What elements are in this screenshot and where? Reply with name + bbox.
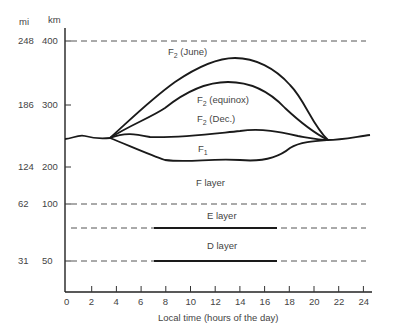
x-ticks bbox=[92, 286, 364, 292]
label-e-layer: E layer bbox=[207, 210, 237, 221]
y-tick-label-km: 50 bbox=[42, 255, 53, 266]
y-tick-label-km: 400 bbox=[42, 35, 58, 46]
x-tick-label: 20 bbox=[309, 296, 320, 307]
label-f1: F1 bbox=[198, 143, 208, 156]
label-f2-equinox: F2 (equinox) bbox=[197, 94, 249, 107]
y-tick-label-mi: 62 bbox=[18, 198, 29, 209]
y-tick-label-mi: 31 bbox=[18, 255, 29, 266]
layer-curves bbox=[65, 58, 370, 261]
x-tick-label: 8 bbox=[163, 296, 168, 307]
x-tick-label: 0 bbox=[64, 296, 69, 307]
x-tick-label: 22 bbox=[334, 296, 345, 307]
x-axis-title: Local time (hours of the day) bbox=[158, 312, 278, 323]
y-tick-label-km: 200 bbox=[42, 161, 58, 172]
y-tick-label-km: 300 bbox=[42, 99, 58, 110]
x-tick-label: 12 bbox=[210, 296, 221, 307]
curve-f2-dec bbox=[110, 130, 328, 140]
curve-f1 bbox=[110, 138, 328, 161]
y-ticks bbox=[65, 41, 71, 261]
x-tick-label: 6 bbox=[138, 296, 143, 307]
curve-f-night-right bbox=[328, 135, 370, 140]
x-tick-label: 4 bbox=[113, 296, 118, 307]
x-tick-label: 16 bbox=[260, 296, 271, 307]
x-tick-label: 24 bbox=[358, 296, 369, 307]
label-f-layer: F layer bbox=[196, 177, 225, 188]
km-axis-label: km bbox=[48, 14, 61, 25]
mi-axis-label: mi bbox=[19, 16, 29, 27]
curve-f-night-left bbox=[65, 136, 110, 139]
x-tick-label: 18 bbox=[284, 296, 295, 307]
label-f2-june: F2 (June) bbox=[168, 46, 207, 59]
y-tick-label-km: 100 bbox=[42, 198, 58, 209]
label-d-layer: D layer bbox=[207, 240, 237, 251]
x-tick-label: 2 bbox=[89, 296, 94, 307]
x-tick-label: 10 bbox=[186, 296, 197, 307]
y-tick-label-mi: 124 bbox=[18, 161, 34, 172]
label-f2-dec: F2 (Dec.) bbox=[197, 113, 235, 126]
y-tick-label-mi: 248 bbox=[18, 35, 34, 46]
x-tick-label: 14 bbox=[235, 296, 246, 307]
y-tick-label-mi: 186 bbox=[18, 99, 34, 110]
